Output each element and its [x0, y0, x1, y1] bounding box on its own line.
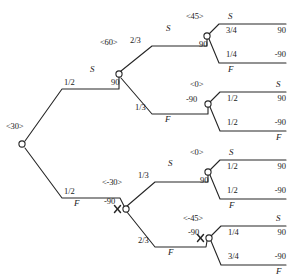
terminal-prob-t7: 1/4	[228, 228, 239, 237]
terminal-prob-t4: 1/2	[227, 118, 238, 127]
terminal-prob-t8: 3/4	[228, 252, 239, 261]
node-label-n2: <0>	[190, 80, 203, 89]
node-value-n3: 90	[200, 176, 209, 185]
terminal-prob-t6: 1/2	[227, 186, 238, 195]
edge-prob-up-n2: 1/3	[135, 103, 146, 112]
terminal-label-t8: F	[276, 267, 282, 276]
terminal-label-t3: S	[276, 80, 281, 89]
terminal-payoff-t2: -90	[254, 50, 286, 59]
node-label-up: <60>	[100, 38, 117, 47]
node-value-n1: 90	[199, 40, 208, 49]
node-root	[19, 141, 25, 147]
terminal-label-t4: F	[276, 133, 282, 142]
terminal-label-t6: F	[229, 201, 235, 210]
terminal-payoff-t8: -90	[254, 252, 286, 261]
edge-label-up-n2: F	[165, 115, 171, 124]
edge-label-root-up: S	[90, 65, 95, 74]
node-n2	[205, 101, 211, 107]
edge-prob-root-dn: 1/2	[64, 187, 75, 196]
edge-label-dn-n3: S	[168, 159, 173, 168]
terminal-label-t2: F	[228, 65, 234, 74]
node-value-n4: -90	[188, 228, 199, 237]
node-label-root: <30>	[6, 122, 23, 131]
edge-label-up-n1: S	[166, 24, 171, 33]
edge-prob-up-n1: 2/3	[130, 36, 141, 45]
node-n4	[206, 235, 212, 241]
node-label-n3: <0>	[190, 148, 203, 157]
node-value-dn: -90	[104, 197, 115, 206]
terminal-prob-t1: 3/4	[226, 26, 237, 35]
terminal-payoff-t7: 90	[254, 228, 286, 237]
edge-prob-dn-n3: 1/3	[138, 171, 149, 180]
node-label-n4: <-45>	[183, 214, 203, 223]
edge-prob-dn-n4: 2/3	[138, 236, 149, 245]
terminal-label-t5: S	[229, 148, 234, 157]
terminal-payoff-t5: 90	[254, 162, 286, 171]
node-label-dn: <-30>	[102, 178, 122, 187]
terminal-label-t7: S	[276, 214, 281, 223]
node-dn	[123, 206, 129, 212]
node-value-n2: -90	[186, 95, 197, 104]
terminal-label-t1: S	[228, 12, 233, 21]
edge-label-root-dn: F	[74, 199, 80, 208]
terminal-payoff-t3: 90	[254, 94, 286, 103]
node-label-n1: <45>	[186, 12, 203, 21]
terminal-prob-t5: 1/2	[227, 162, 238, 171]
edge-prob-root-up: 1/2	[64, 78, 75, 87]
terminal-prob-t2: 1/4	[226, 50, 237, 59]
terminal-payoff-t6: -90	[254, 186, 286, 195]
pruned-mark-dn	[115, 206, 121, 213]
node-value-up: 90	[111, 78, 120, 87]
edge-label-dn-n4: F	[168, 248, 174, 257]
terminal-payoff-t1: 90	[254, 26, 286, 35]
terminal-prob-t3: 1/2	[227, 94, 238, 103]
terminal-payoff-t4: -90	[254, 118, 286, 127]
